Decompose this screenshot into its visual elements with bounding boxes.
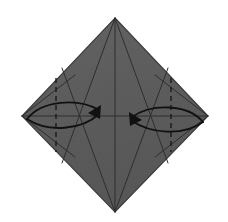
- origami-figure: [0, 0, 228, 222]
- origami-diagram-canvas: [0, 0, 228, 222]
